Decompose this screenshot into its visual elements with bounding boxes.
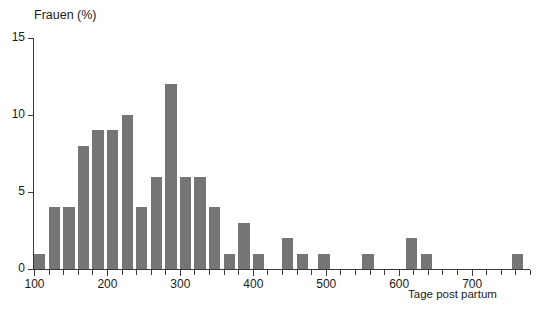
y-axis-tick: 10	[28, 115, 33, 116]
x-axis-tick	[501, 270, 502, 275]
bar	[253, 254, 264, 269]
y-axis-tick: 5	[28, 192, 33, 193]
bar	[136, 207, 147, 269]
x-axis-tick	[165, 270, 166, 275]
x-axis-tick	[194, 270, 195, 275]
x-axis-tick-label: 100	[24, 278, 44, 291]
y-axis-tick: 0	[28, 269, 33, 270]
x-axis-major-tick: 500	[326, 270, 327, 276]
x-axis-tick	[530, 270, 531, 275]
x-axis-tick	[355, 270, 356, 275]
x-axis-tick	[384, 270, 385, 275]
bar	[49, 207, 60, 269]
y-axis-title: Frauen (%)	[34, 8, 97, 22]
x-axis-major-tick: 200	[107, 270, 108, 276]
bar	[406, 238, 417, 269]
x-axis-major-tick: 300	[180, 270, 181, 276]
y-axis-tick-label: 5	[18, 185, 25, 198]
bar	[34, 254, 45, 269]
bar	[194, 177, 205, 269]
x-axis-major-tick: 400	[253, 270, 254, 276]
x-axis-tick	[49, 270, 50, 275]
bar	[318, 254, 329, 269]
bar	[180, 177, 191, 269]
bar	[151, 177, 162, 269]
x-axis-tick	[151, 270, 152, 275]
bar	[92, 130, 103, 269]
x-axis-tick	[486, 270, 487, 275]
bar	[421, 254, 432, 269]
x-axis-major-tick: 700	[472, 270, 473, 276]
bar	[512, 254, 523, 269]
x-axis-tick	[122, 270, 123, 275]
x-axis-major-tick: 600	[399, 270, 400, 276]
x-axis-tick	[413, 270, 414, 275]
plot-area	[34, 38, 530, 269]
x-axis-tick	[78, 270, 79, 275]
bar	[63, 207, 74, 269]
bar	[297, 254, 308, 269]
x-axis-tick	[63, 270, 64, 275]
bar	[165, 84, 176, 269]
x-axis-tick	[311, 270, 312, 275]
bar	[238, 223, 249, 269]
x-axis-tick-label: 200	[97, 278, 117, 291]
x-axis-tick	[92, 270, 93, 275]
x-axis-tick	[282, 270, 283, 275]
x-axis-tick-label: 600	[389, 278, 409, 291]
x-axis-tick	[136, 270, 137, 275]
x-axis-title: Tage post partum	[408, 288, 497, 301]
y-axis-tick-label: 10	[12, 108, 25, 121]
bar	[224, 254, 235, 269]
x-axis-tick-label: 400	[243, 278, 263, 291]
x-axis-tick	[428, 270, 429, 275]
x-axis-tick	[370, 270, 371, 275]
bar	[107, 130, 118, 269]
bar-chart: Frauen (%) 051015 100200300400500600700 …	[0, 0, 540, 324]
x-axis-tick	[457, 270, 458, 275]
x-axis-tick	[238, 270, 239, 275]
bar	[282, 238, 293, 269]
bar	[78, 146, 89, 269]
x-axis-tick-label: 500	[316, 278, 336, 291]
x-axis-major-tick: 100	[34, 270, 35, 276]
y-axis-tick: 15	[28, 38, 33, 39]
bar	[122, 115, 133, 269]
x-axis-tick	[442, 270, 443, 275]
x-axis-tick	[340, 270, 341, 275]
x-axis-tick	[515, 270, 516, 275]
x-axis-tick-label: 300	[170, 278, 190, 291]
x-axis-tick	[267, 270, 268, 275]
y-axis-tick-label: 0	[18, 262, 25, 275]
bar	[362, 254, 373, 269]
bar	[209, 207, 220, 269]
x-axis-tick	[224, 270, 225, 275]
y-axis-tick-label: 15	[12, 31, 25, 44]
x-axis-tick	[209, 270, 210, 275]
x-axis-tick	[297, 270, 298, 275]
